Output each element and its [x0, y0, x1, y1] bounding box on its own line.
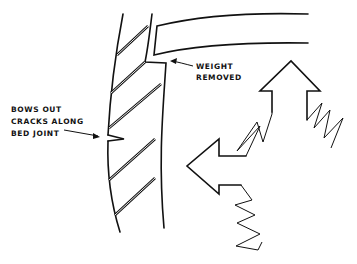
bows-out-label-2: CRACKS ALONG	[11, 117, 84, 126]
crack-notch	[108, 135, 124, 141]
bows-out-label-1: BOWS OUT	[11, 105, 62, 114]
spring-tail-up	[307, 103, 343, 148]
bows-out-leader	[64, 130, 98, 136]
bows-out-label-3: BED JOINT	[11, 129, 60, 138]
diagram-canvas: WEIGHT REMOVED BOWS OUT CRACKS ALONG BED…	[0, 0, 357, 264]
arrow-up-icon	[260, 61, 320, 120]
weight-removed-label-1: WEIGHT	[196, 62, 234, 71]
weight-removed-arrowhead	[170, 58, 177, 64]
roof-beam	[154, 14, 308, 55]
spring-tail-left	[235, 112, 272, 250]
weight-removed-label-2: REMOVED	[196, 73, 242, 82]
arrow-left-icon	[187, 139, 246, 194]
bows-out-arrowhead	[93, 133, 100, 139]
wall-hatching	[109, 26, 161, 215]
